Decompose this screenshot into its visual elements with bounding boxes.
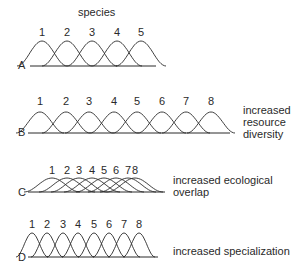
species-number: 2 [64,26,70,38]
species-number: 1 [39,26,45,38]
species-number: 8 [136,218,142,230]
species-number: 5 [101,164,107,176]
species-number: 6 [159,95,165,107]
species-number: 3 [89,26,95,38]
species-number: 2 [44,218,50,230]
species-number: 1 [37,95,43,107]
species-number: 4 [111,95,117,107]
species-curve-a-2 [42,41,92,66]
species-number: 1 [49,164,55,176]
species-number: 3 [76,164,82,176]
species-number: 6 [106,218,112,230]
panel-label-b: B [18,126,25,138]
species-number: 2 [64,164,70,176]
species-number: 1 [29,218,35,230]
species-number: 5 [138,26,144,38]
species-number: 5 [134,95,140,107]
species-number: 7 [125,164,131,176]
species-number: 5 [91,218,97,230]
species-curve-b-6 [138,112,186,133]
species-curve-a-3 [67,41,117,66]
species-number: 6 [113,164,119,176]
species-number: 3 [60,218,66,230]
species-curve-b-7 [162,112,210,133]
caption-d: increased specialization [173,245,290,257]
species-number: 4 [75,218,81,230]
panel-label-c: C [18,186,26,198]
caption-c-line2: overlap [173,186,209,198]
caption-c-line1: increased ecological [173,174,273,186]
diagram-title: species [78,6,115,18]
caption-b-line1: increased [243,104,291,116]
caption-b-line2: resource [243,116,286,128]
species-number: 4 [89,164,95,176]
species-number: 7 [121,218,127,230]
species-number: 2 [63,95,69,107]
species-number: 8 [208,95,214,107]
species-curve-b-8 [187,112,235,133]
species-number: 8 [132,164,138,176]
species-number: 7 [183,95,189,107]
species-number: 4 [114,26,120,38]
species-number: 3 [86,95,92,107]
panel-label-a: A [18,59,25,71]
panel-label-d: D [18,251,26,263]
caption-b-line3: diversity [243,128,283,140]
